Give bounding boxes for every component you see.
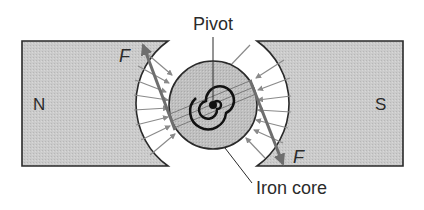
force-arrow-bottom	[250, 80, 283, 164]
south-pole-label: S	[375, 95, 386, 114]
pivot-label: Pivot	[193, 14, 233, 34]
iron-core-leader-line	[225, 148, 252, 183]
north-pole-label: N	[33, 95, 45, 114]
iron-core-label: Iron core	[256, 178, 327, 198]
force-label-bottom: F	[293, 147, 305, 167]
moving-coil-meter-diagram: Pivot N S F F Iron core	[0, 0, 424, 210]
force-label-top: F	[119, 46, 131, 66]
force-arrow-top	[143, 45, 175, 130]
